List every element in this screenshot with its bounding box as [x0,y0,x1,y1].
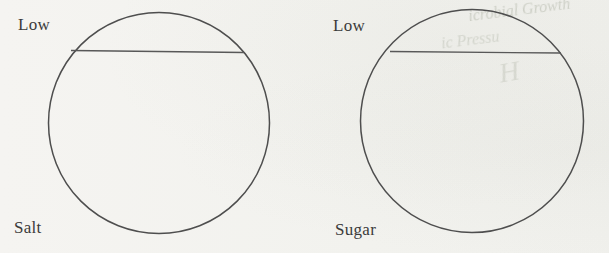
liquid-level-line-salt [71,51,244,53]
solute-label-salt: Salt [14,219,42,236]
scanned-figure-canvas: icrobial Growth ic Pressu H Low Low Salt… [0,0,609,253]
solute-label-sugar: Sugar [335,221,376,238]
flask-circle-salt [49,13,270,234]
level-label-left: Low [18,16,50,33]
level-label-right: Low [333,17,365,34]
flask-diagram-svg [0,0,609,253]
flask-circle-sugar [361,10,584,233]
liquid-level-line-sugar [390,52,561,54]
